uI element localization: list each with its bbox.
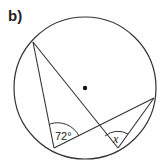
circle-theorem-diagram: 72° x [0,0,163,163]
chord-c-d [118,98,154,148]
chord-a-c [33,42,118,148]
angle-label-72: 72° [55,130,72,142]
chord-a-b [33,42,54,148]
center-point [83,86,87,90]
angle-label-x: x [112,132,119,146]
